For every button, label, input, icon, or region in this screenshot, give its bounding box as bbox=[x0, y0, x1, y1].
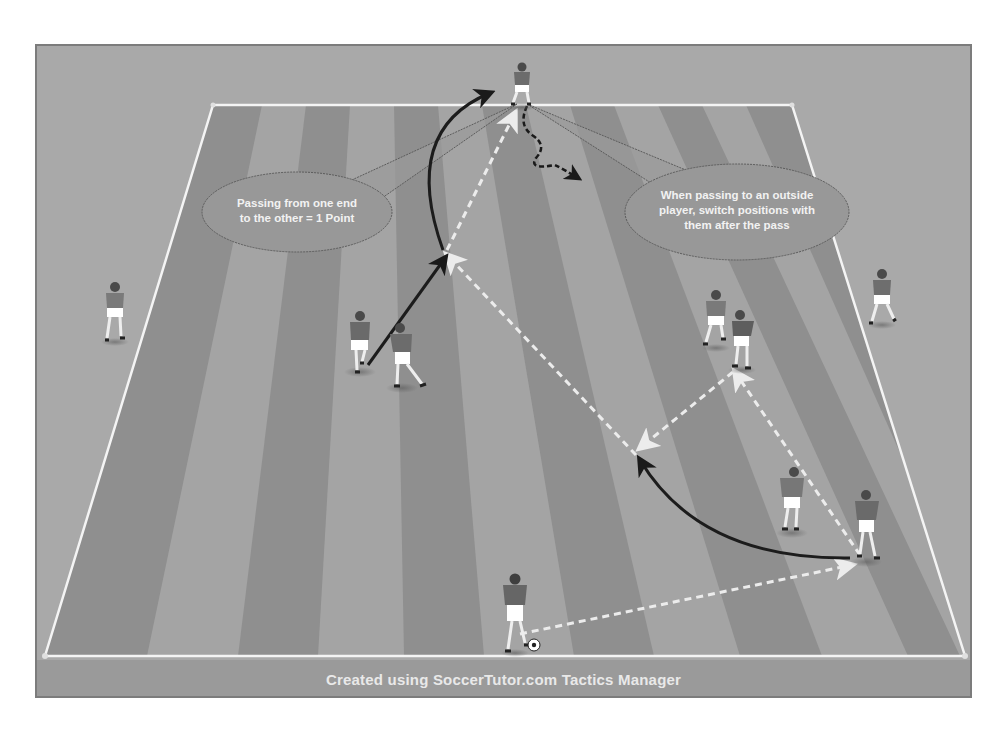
callout-scoring-text: Passing from one end to the other = 1 Po… bbox=[202, 196, 392, 226]
player-left-outside[interactable] bbox=[101, 282, 129, 346]
corner-marker bbox=[211, 103, 216, 108]
caption-credit: Created using SoccerTutor.com Tactics Ma… bbox=[37, 662, 970, 696]
callout-switch-text: When passing to an outside player, switc… bbox=[627, 188, 847, 233]
player-top-end[interactable] bbox=[508, 63, 536, 112]
corner-marker bbox=[962, 653, 968, 659]
pitch-diagram bbox=[0, 0, 1006, 730]
player-right-outside[interactable] bbox=[868, 269, 896, 329]
corner-marker bbox=[42, 653, 48, 659]
corner-marker bbox=[790, 103, 795, 108]
ball-icon[interactable] bbox=[528, 639, 540, 651]
